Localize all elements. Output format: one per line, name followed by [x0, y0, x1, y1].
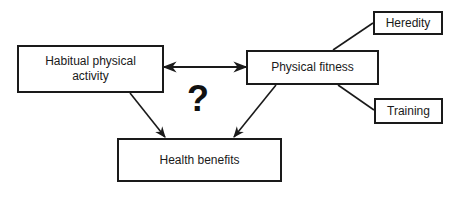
habitual-activity-box: Habitual physical activity	[17, 45, 164, 93]
health-benefits-box: Health benefits	[117, 138, 282, 182]
line-training-to-fitness	[338, 85, 374, 110]
habitual-activity-label: Habitual physical activity	[41, 54, 141, 84]
arrow-fitness-to-health	[234, 85, 276, 137]
physical-fitness-label: Physical fitness	[271, 60, 354, 75]
physical-fitness-box: Physical fitness	[246, 50, 379, 85]
line-heredity-to-fitness	[333, 23, 373, 50]
heredity-label: Heredity	[386, 16, 431, 31]
health-benefits-label: Health benefits	[159, 153, 239, 168]
heredity-box: Heredity	[373, 11, 443, 35]
arrow-activity-to-health	[130, 93, 165, 137]
training-box: Training	[374, 98, 443, 124]
training-label: Training	[387, 104, 430, 119]
question-mark-annotation: ?	[187, 81, 209, 117]
